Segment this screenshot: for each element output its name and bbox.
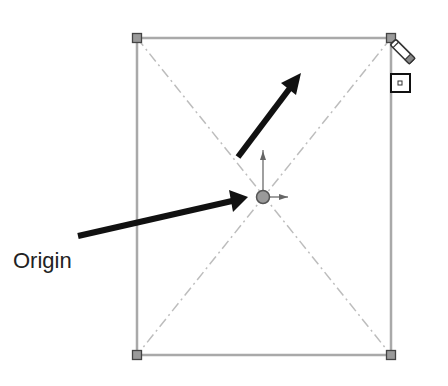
origin-point[interactable] (257, 191, 270, 204)
sketch-canvas[interactable] (0, 0, 448, 386)
pencil-icon (390, 39, 415, 64)
arrow-up-right (238, 73, 301, 157)
origin-label: Origin (13, 248, 72, 274)
corner-point-bottom-left[interactable] (133, 351, 142, 360)
point-inference-box (391, 74, 410, 92)
arrow-to-origin (78, 190, 248, 236)
corner-point-bottom-right[interactable] (387, 351, 396, 360)
corner-point-top-left[interactable] (133, 34, 142, 43)
